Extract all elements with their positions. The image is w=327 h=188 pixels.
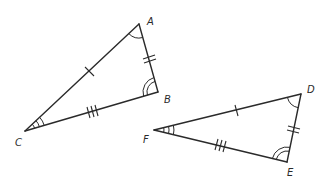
vertex-label-a: A xyxy=(146,16,154,27)
angle-d-arc xyxy=(287,97,298,107)
vertex-label-b: B xyxy=(164,94,171,105)
vertex-label-f: F xyxy=(143,134,149,145)
side-cb-tick-triple xyxy=(87,105,98,118)
vertex-label-c: C xyxy=(15,137,22,148)
side-fe-tick-triple xyxy=(215,139,226,152)
side-fd xyxy=(154,94,301,130)
angle-a-arc xyxy=(129,34,143,38)
congruent-triangles-diagram: A B C xyxy=(0,0,327,188)
vertex-label-e: E xyxy=(287,167,294,178)
side-ab xyxy=(139,24,158,92)
triangle-abc: A B C xyxy=(15,16,171,148)
vertex-label-d: D xyxy=(307,84,315,95)
